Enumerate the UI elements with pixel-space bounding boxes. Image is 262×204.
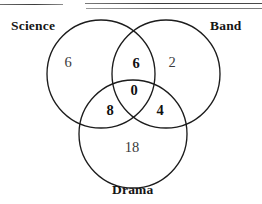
set-label-science: Science bbox=[11, 18, 55, 34]
region-count-drama-only: 18 bbox=[125, 139, 140, 156]
venn-diagram-figure: Science Band Drama 6 6 2 0 8 4 18 bbox=[0, 0, 262, 204]
region-count-science-only: 6 bbox=[64, 54, 71, 71]
region-count-band-only: 2 bbox=[168, 54, 175, 71]
region-count-science-band: 6 bbox=[132, 55, 139, 72]
region-count-all-three: 0 bbox=[130, 82, 137, 99]
set-label-drama: Drama bbox=[112, 182, 154, 198]
region-count-band-drama: 4 bbox=[156, 102, 163, 119]
region-count-science-drama: 8 bbox=[106, 102, 113, 119]
set-label-band: Band bbox=[210, 18, 242, 34]
